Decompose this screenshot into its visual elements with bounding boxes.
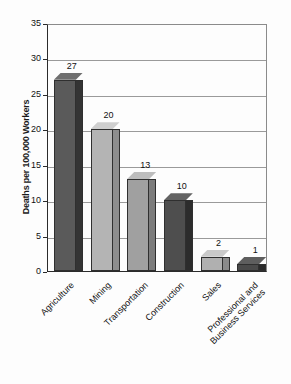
bar-value-label: 20	[98, 110, 120, 120]
y-axis-tick-label: 0	[15, 266, 41, 276]
bar-side-face	[223, 257, 230, 271]
y-axis-tick-mark	[43, 166, 47, 167]
y-axis-tick-label: 20	[15, 124, 41, 134]
bar[interactable]	[91, 129, 113, 271]
bar-front-face	[127, 179, 149, 271]
bar-top-face	[54, 73, 83, 80]
bar-side-face	[113, 129, 120, 271]
y-axis-tick-mark	[43, 59, 47, 60]
bar-value-label: 1	[244, 245, 266, 255]
plot-area: 2720131021	[47, 24, 267, 272]
bar-side-face	[76, 80, 83, 271]
y-axis-tick-mark	[43, 24, 47, 25]
bar-value-label: 2	[208, 238, 230, 248]
y-axis-title: Deaths per 100,000 Workers	[21, 77, 31, 237]
bar[interactable]	[127, 179, 149, 271]
bar[interactable]	[54, 80, 76, 271]
bar-front-face	[91, 129, 113, 271]
bar-front-face	[54, 80, 76, 271]
bar-top-face	[201, 250, 230, 257]
y-axis-tick-mark	[43, 95, 47, 96]
bar[interactable]	[201, 257, 223, 271]
x-axis-label: Mining	[87, 280, 113, 306]
y-axis-tick-mark	[43, 237, 47, 238]
bar-value-label: 13	[134, 160, 156, 170]
y-axis-tick-mark	[43, 130, 47, 131]
bar-series: 2720131021	[48, 25, 266, 271]
y-axis-tick-label: 30	[15, 53, 41, 63]
bar-top-face	[127, 172, 156, 179]
bar-side-face	[186, 200, 193, 271]
bar-top-face	[91, 122, 120, 129]
bar-front-face	[237, 264, 259, 271]
y-axis-tick-label: 5	[15, 231, 41, 241]
bar-front-face	[164, 200, 186, 271]
y-axis-tick-label: 25	[15, 89, 41, 99]
y-axis-tick-label: 10	[15, 195, 41, 205]
bar-value-label: 27	[61, 61, 83, 71]
bar-value-label: 10	[171, 181, 193, 191]
bar-chart: Deaths per 100,000 Workers 2720131021 05…	[0, 0, 291, 384]
bar-side-face	[149, 179, 156, 271]
bar-top-face	[164, 193, 193, 200]
x-axis-label: Agriculture	[39, 280, 76, 317]
bar-side-face	[259, 264, 266, 271]
bar-top-face	[237, 257, 266, 264]
y-axis-tick-label: 35	[15, 18, 41, 28]
bar[interactable]	[164, 200, 186, 271]
bar-front-face	[201, 257, 223, 271]
bar[interactable]	[237, 264, 259, 271]
x-axis-labels: AgricultureMiningTransportationConstruct…	[47, 276, 267, 382]
y-axis-tick-mark	[43, 272, 47, 273]
y-axis-tick-mark	[43, 201, 47, 202]
y-axis-tick-label: 15	[15, 160, 41, 170]
x-axis-label: Sales	[200, 280, 223, 303]
